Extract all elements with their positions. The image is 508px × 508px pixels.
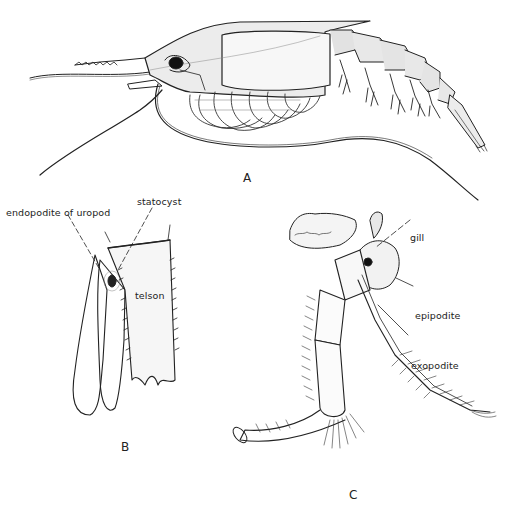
label-exopodite: exopodite [411, 360, 459, 371]
panel-c-limb [230, 212, 496, 448]
panel-label-b: B [121, 440, 129, 454]
label-epipodite: epipodite [415, 310, 461, 321]
label-telson: telson [135, 290, 165, 301]
panel-label-c: C [349, 488, 357, 502]
panel-b-tailfan [68, 208, 179, 415]
panel-a-animal [30, 21, 487, 200]
label-statocyst: statocyst [137, 196, 181, 207]
mysid-illustration: A [0, 0, 508, 508]
label-endopodite-of-uropod: endopodite of uropod [6, 207, 110, 218]
panel-label-a: A [243, 171, 252, 185]
label-gill: gill [410, 232, 424, 243]
